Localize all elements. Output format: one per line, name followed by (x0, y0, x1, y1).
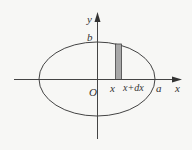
diagram-canvas (0, 0, 192, 150)
ellipse-area-diagram: y b O x x+dx a x (0, 0, 192, 150)
strip-right-label: x+dx (123, 83, 144, 93)
origin-label: O (89, 87, 97, 98)
integration-strip (116, 44, 122, 80)
b-label: b (87, 32, 93, 43)
x-axis-label: x (175, 83, 180, 94)
strip-left-label: x (110, 83, 115, 94)
a-label: a (156, 83, 162, 94)
y-axis-arrow-icon (95, 12, 101, 22)
y-axis-label: y (87, 14, 92, 25)
